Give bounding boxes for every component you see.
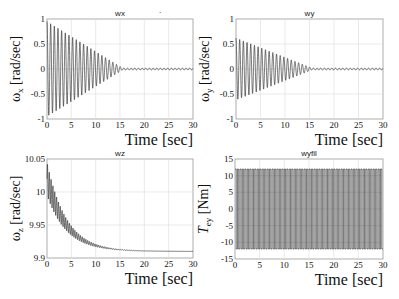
subplot-title: wy — [304, 9, 315, 18]
x-tick-label: 25 — [354, 260, 364, 270]
y-tick-label: -0.5 — [220, 89, 235, 99]
y-tick-label: -10 — [221, 237, 233, 247]
x-axis-label: Time [sec] — [125, 131, 193, 148]
figure: 051015202530-1-0.500.51wxTime [sec]ωx [r… — [0, 0, 399, 299]
x-axis-label: Time [sec] — [125, 270, 193, 287]
x-tick-label: 10 — [91, 259, 101, 269]
subplot-wy: 051015202530-1-0.500.51wyTime [sec]ωy [r… — [197, 9, 388, 148]
x-tick-label: 0 — [233, 260, 238, 270]
x-tick-label: 0 — [45, 259, 50, 269]
y-tick-label: -5 — [226, 221, 234, 231]
x-tick-label: 30 — [379, 120, 389, 130]
y-axis-label: Tey [Nm] — [196, 184, 213, 234]
y-tick-label: 9.95 — [29, 220, 45, 230]
y-tick-label: 0 — [230, 64, 235, 74]
y-tick-label: 0.5 — [34, 39, 46, 49]
subplot-wz: 0510152025309.99.951010.05wzTime [sec]ωz… — [8, 149, 198, 287]
y-axis-label: ωy [rad/sec] — [197, 36, 214, 102]
x-tick-label: 15 — [305, 120, 315, 130]
x-tick-label: 10 — [91, 120, 101, 130]
x-tick-label: 25 — [164, 120, 174, 130]
y-tick-label: 0 — [41, 64, 46, 74]
x-tick-label: 30 — [189, 259, 199, 269]
x-axis-label: Time [sec] — [315, 271, 383, 288]
y-tick-label: 10 — [36, 187, 46, 197]
x-tick-label: 0 — [234, 120, 239, 130]
subplot-title: wx — [114, 9, 125, 18]
y-tick-label: -1 — [227, 114, 235, 124]
y-tick-label: 0.5 — [223, 39, 235, 49]
x-tick-label: 10 — [281, 120, 291, 130]
x-tick-label: 5 — [69, 259, 74, 269]
y-tick-label: -15 — [221, 254, 233, 264]
x-tick-label: 15 — [116, 120, 126, 130]
y-tick-label: -0.5 — [31, 89, 46, 99]
x-tick-label: 10 — [280, 260, 290, 270]
x-tick-label: 30 — [189, 120, 199, 130]
x-tick-label: 20 — [330, 120, 340, 130]
signal-line — [235, 169, 383, 249]
x-tick-label: 15 — [305, 260, 315, 270]
y-tick-label: 1 — [41, 14, 46, 24]
y-tick-label: 9.9 — [34, 253, 46, 263]
y-tick-label: 10 — [224, 171, 234, 181]
x-tick-label: 5 — [69, 120, 74, 130]
y-axis-label: ωz [rad/sec] — [8, 176, 25, 242]
x-tick-label: 20 — [140, 120, 150, 130]
subplot-wx: 051015202530-1-0.500.51wxTime [sec]ωx [r… — [8, 9, 198, 148]
subplot-title: wyfil — [300, 149, 317, 158]
subplot-title: wz — [114, 149, 125, 158]
y-tick-label: -1 — [38, 114, 46, 124]
x-tick-label: 30 — [379, 260, 389, 270]
x-tick-label: 0 — [45, 120, 50, 130]
y-tick-label: 10.05 — [25, 154, 46, 164]
y-tick-label: 15 — [224, 154, 234, 164]
x-tick-label: 15 — [116, 259, 126, 269]
x-axis-label: Time [sec] — [315, 131, 383, 148]
x-tick-label: 25 — [354, 120, 364, 130]
y-axis-label: ωx [rad/sec] — [8, 36, 25, 102]
y-tick-label: 1 — [230, 14, 235, 24]
x-tick-label: 20 — [140, 259, 150, 269]
stray-mark: · — [159, 8, 162, 17]
x-tick-label: 25 — [164, 259, 174, 269]
y-tick-label: 5 — [229, 187, 234, 197]
x-tick-label: 20 — [329, 260, 339, 270]
subplot-wyfil: 051015202530-15-10-5051015wyfilTime [sec… — [196, 149, 388, 288]
y-tick-label: 0 — [229, 204, 234, 214]
x-tick-label: 5 — [257, 260, 262, 270]
x-tick-label: 5 — [258, 120, 263, 130]
